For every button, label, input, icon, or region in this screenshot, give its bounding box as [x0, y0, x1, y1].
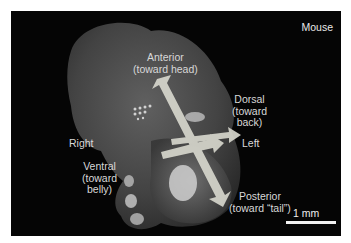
posterior-label: Posterior (toward “tail”) [229, 191, 291, 214]
mouse-embryo-image [11, 11, 341, 236]
right-label: Right [69, 138, 94, 150]
ventral-label: Ventral (toward belly) [82, 161, 117, 196]
embryo-image-panel: Mouse Anterior (toward head) Dorsal (tow… [11, 11, 341, 236]
species-label: Mouse [301, 21, 333, 33]
left-label: Left [242, 138, 260, 150]
scale-bar-label: 1 mm [293, 207, 319, 219]
anterior-label: Anterior (toward head) [133, 52, 198, 75]
dorsal-label: Dorsal (toward back) [232, 94, 267, 129]
scale-bar [286, 221, 336, 224]
